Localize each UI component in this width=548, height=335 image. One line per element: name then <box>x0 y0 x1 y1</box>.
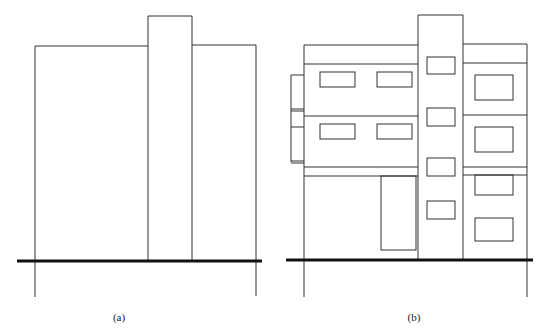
panel-b-caption: (b) <box>408 311 421 323</box>
window <box>475 75 513 100</box>
window <box>320 72 355 87</box>
tower-window <box>427 108 455 126</box>
tower-window <box>427 158 455 176</box>
central-tower <box>418 15 463 260</box>
window <box>377 72 412 87</box>
elevation-drawings <box>0 0 548 335</box>
central-tower <box>148 16 192 260</box>
door <box>381 176 416 250</box>
panel-a-caption: (a) <box>113 311 125 323</box>
window <box>320 124 355 139</box>
window <box>475 175 513 195</box>
tower-window <box>427 201 455 219</box>
window <box>475 127 513 152</box>
balcony <box>291 75 304 163</box>
panel-b-building-elevation <box>291 15 527 297</box>
panel-a-building-massing <box>35 16 256 297</box>
window <box>377 124 412 139</box>
tower-window <box>427 57 455 74</box>
window <box>475 218 513 241</box>
